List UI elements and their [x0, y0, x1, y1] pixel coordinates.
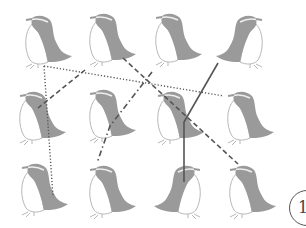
puzzle-canvas: 1 [0, 0, 306, 228]
dotted-line [44, 66, 53, 197]
connecting-lines [0, 0, 306, 228]
dash-dot-line [97, 72, 152, 163]
dashed-line [123, 58, 238, 164]
solid-line [184, 63, 218, 182]
